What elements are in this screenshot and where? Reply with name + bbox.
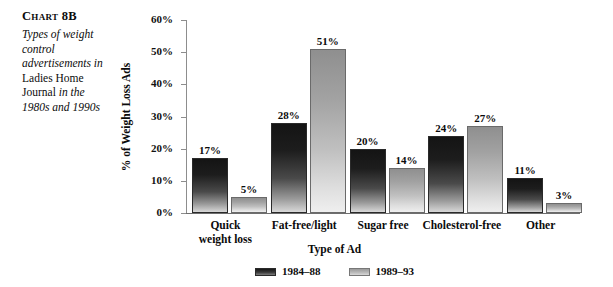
caption-line-2: control [22, 43, 55, 55]
y-axis-tick-label: 50% [151, 45, 173, 57]
y-axis-tick: 10% [181, 181, 186, 182]
x-axis-category-label: Cholesterol-free [422, 218, 501, 232]
bar-group: 24%27% [428, 20, 503, 213]
x-axis-category-label: Fat-free/light [265, 218, 344, 232]
bar-value-label: 14% [396, 154, 418, 166]
bar[interactable]: 51% [310, 49, 346, 213]
y-axis-tick: 30% [181, 117, 186, 118]
y-axis-tick-label: 0% [157, 206, 174, 218]
caption-line-4: Ladies Home [22, 72, 84, 84]
chart-legend: 1984–881989–93 [0, 260, 613, 279]
bar-group: 11%3% [507, 20, 582, 213]
y-axis-tick: 60% [181, 20, 186, 21]
y-axis-tick: 40% [181, 84, 186, 85]
caption-line-6: 1980s and 1990s [22, 101, 100, 113]
bar-value-label: 24% [435, 122, 457, 134]
bar-group: 17%5% [192, 20, 267, 213]
legend-label: 1984–88 [282, 266, 321, 278]
y-axis-tick: 50% [181, 52, 186, 53]
bar-value-label: 11% [514, 164, 535, 176]
y-axis-title-text: % of Weight Loss Ads [120, 62, 132, 170]
bar[interactable]: 28% [271, 123, 307, 213]
plot-area: 0%10%20%30%40%50%60% 17%5%28%51%20%14%24… [186, 20, 580, 213]
bar-value-label: 5% [241, 183, 258, 195]
bar-group: 20%14% [350, 20, 425, 213]
y-axis-tick: 0% [181, 213, 186, 214]
x-axis-category-label: Quick weight loss [186, 218, 265, 246]
y-axis-tick-label: 30% [151, 110, 173, 122]
caption-line-5-journal: Journal [22, 86, 56, 98]
bar[interactable]: 5% [231, 197, 267, 213]
bar[interactable]: 20% [350, 149, 386, 213]
bar[interactable]: 17% [192, 158, 228, 213]
caption-line-3: advertisements in [22, 57, 103, 69]
bar[interactable]: 14% [389, 168, 425, 213]
y-axis-tick-label: 40% [151, 77, 173, 89]
caption-line-5-tail: in the [56, 86, 85, 98]
x-axis-line [186, 213, 580, 214]
legend-item[interactable]: 1989–93 [349, 261, 415, 279]
legend-swatch [349, 268, 370, 276]
x-axis-title-text: Type of Ad [308, 243, 361, 255]
bar-value-label: 20% [357, 135, 379, 147]
legend-swatch [255, 268, 276, 276]
x-axis-title: Type of Ad [0, 243, 613, 255]
bar-value-label: 3% [556, 189, 573, 201]
bar-value-label: 28% [278, 109, 300, 121]
bar[interactable]: 3% [546, 203, 582, 213]
bar[interactable]: 27% [467, 126, 503, 213]
x-axis-category-label: Other [501, 218, 580, 232]
legend-item[interactable]: 1984–88 [255, 261, 321, 279]
bar-value-label: 17% [199, 144, 221, 156]
y-axis-tick-label: 20% [151, 142, 173, 154]
bar[interactable]: 11% [507, 178, 543, 213]
y-axis-line [186, 20, 187, 213]
y-axis-tick-label: 60% [151, 13, 173, 25]
caption-line-1: Types of weight [22, 28, 93, 40]
bar[interactable]: 24% [428, 136, 464, 213]
legend-label: 1989–93 [376, 266, 415, 278]
bar-group: 28%51% [271, 20, 346, 213]
x-axis-category-label: Sugar free [344, 218, 423, 232]
y-axis-title: % of Weight Loss Ads [119, 20, 133, 213]
y-axis-tick: 20% [181, 149, 186, 150]
y-axis-tick-label: 10% [151, 174, 173, 186]
bar-value-label: 27% [474, 112, 496, 124]
chart-screenshot: Chart 8B Types of weight control adverti… [0, 0, 613, 287]
bar-value-label: 51% [317, 35, 339, 47]
legend-items: 1984–881989–93 [241, 260, 428, 279]
